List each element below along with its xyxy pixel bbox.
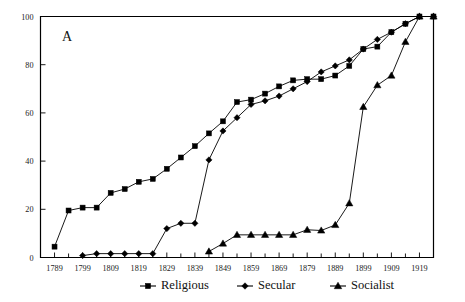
legend-label: Socialist: [351, 278, 395, 292]
marker-triangle: [346, 200, 353, 206]
marker-triangle: [388, 72, 395, 78]
marker-square: [347, 63, 352, 68]
marker-diamond: [242, 283, 249, 290]
marker-square: [108, 190, 113, 195]
legend-item-secular: Secular: [237, 278, 296, 292]
marker-diamond: [192, 220, 198, 226]
y-axis-ticks: 020406080100: [21, 13, 45, 263]
marker-square: [192, 144, 197, 149]
marker-diamond: [332, 63, 338, 69]
marker-diamond: [262, 98, 268, 104]
marker-triangle: [205, 248, 212, 254]
x-tick-label: 1849: [215, 264, 231, 273]
x-tick-label: 1899: [355, 264, 371, 273]
series-secular: [79, 13, 436, 258]
plot-frame: [41, 17, 434, 258]
y-tick-label: 80: [25, 61, 33, 70]
marker-square: [80, 205, 85, 210]
chart-figure: 020406080100 178917991809181918291839184…: [0, 0, 465, 302]
series-line-religious: [55, 17, 434, 247]
marker-square: [164, 166, 169, 171]
marker-square: [319, 77, 324, 82]
legend-label: Secular: [258, 278, 296, 292]
marker-triangle: [360, 103, 367, 109]
marker-diamond: [374, 36, 380, 42]
marker-square: [375, 44, 380, 49]
marker-square: [333, 73, 338, 78]
x-tick-label: 1909: [383, 264, 399, 273]
y-tick-label: 60: [25, 109, 33, 118]
marker-triangle: [219, 240, 226, 246]
marker-square: [136, 179, 141, 184]
y-tick-label: 20: [25, 205, 33, 214]
marker-triangle: [261, 231, 268, 237]
marker-square: [66, 208, 71, 213]
marker-triangle: [374, 82, 381, 88]
legend-item-socialist: Socialist: [330, 278, 395, 292]
x-tick-label: 1859: [243, 264, 259, 273]
y-tick-label: 40: [25, 157, 33, 166]
x-axis-ticks: 1789179918091819182918391849185918691879…: [46, 253, 433, 273]
marker-triangle: [275, 231, 282, 237]
marker-square: [150, 176, 155, 181]
x-tick-label: 1869: [271, 264, 287, 273]
series-container: [52, 13, 437, 259]
marker-diamond: [136, 251, 142, 257]
marker-diamond: [318, 69, 324, 75]
line-chart: 020406080100 178917991809181918291839184…: [0, 0, 465, 302]
marker-square: [263, 91, 268, 96]
marker-square: [277, 84, 282, 89]
marker-square: [178, 155, 183, 160]
marker-square: [220, 119, 225, 124]
y-tick-label: 100: [21, 13, 33, 22]
marker-triangle: [233, 231, 240, 237]
series-religious: [52, 14, 436, 249]
y-tick-label: 0: [29, 254, 33, 263]
marker-diamond: [276, 93, 282, 99]
marker-diamond: [178, 220, 184, 226]
legend-label: Religious: [161, 278, 209, 292]
panel-label: A: [62, 29, 73, 44]
chart-legend: ReligiousSecularSocialist: [140, 278, 395, 292]
x-tick-label: 1879: [299, 264, 315, 273]
marker-triangle: [304, 226, 311, 232]
marker-square: [145, 283, 150, 288]
marker-diamond: [94, 251, 100, 257]
x-tick-label: 1889: [327, 264, 343, 273]
plot-border: [41, 17, 434, 258]
marker-diamond: [206, 157, 212, 163]
marker-square: [122, 187, 127, 192]
marker-diamond: [290, 86, 296, 92]
series-socialist: [205, 13, 437, 254]
x-tick-label: 1829: [159, 264, 175, 273]
marker-diamond: [164, 225, 170, 231]
marker-square: [52, 244, 57, 249]
x-tick-label: 1839: [187, 264, 203, 273]
marker-triangle: [402, 38, 409, 44]
marker-diamond: [150, 251, 156, 257]
x-tick-label: 1799: [74, 264, 90, 273]
marker-triangle: [247, 231, 254, 237]
series-line-socialist: [209, 17, 434, 252]
marker-diamond: [108, 251, 114, 257]
x-tick-label: 1919: [411, 264, 427, 273]
marker-square: [235, 100, 240, 105]
marker-triangle: [332, 221, 339, 227]
x-tick-label: 1819: [131, 264, 147, 273]
series-line-secular: [83, 17, 434, 256]
marker-diamond: [122, 251, 128, 257]
legend-item-religious: Religious: [140, 278, 209, 292]
x-tick-label: 1789: [46, 264, 62, 273]
x-tick-label: 1809: [102, 264, 118, 273]
marker-square: [291, 78, 296, 83]
marker-square: [206, 131, 211, 136]
marker-square: [94, 205, 99, 210]
